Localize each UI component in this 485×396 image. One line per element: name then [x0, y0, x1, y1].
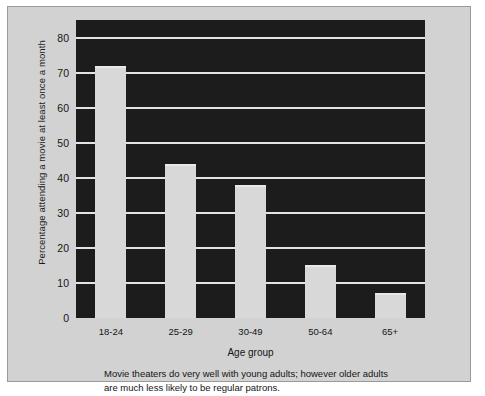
x-tick-label: 18-24: [99, 326, 123, 337]
y-tick-label: 30: [57, 207, 69, 219]
x-axis-title: Age group: [76, 347, 425, 358]
y-tick-label: 0: [63, 312, 69, 324]
gridline: [76, 72, 425, 74]
y-tick-label: 80: [57, 32, 69, 44]
y-axis-title: Percentage attending a movie at least on…: [36, 8, 47, 298]
x-tick-label: 50-64: [308, 326, 332, 337]
y-tick-label: 20: [57, 242, 69, 254]
bar: [95, 66, 126, 318]
bar: [375, 293, 406, 318]
y-tick-label: 60: [57, 102, 69, 114]
y-tick-label: 10: [57, 277, 69, 289]
gridline: [76, 107, 425, 109]
chart-caption: Movie theaters do very well with young a…: [104, 367, 404, 394]
y-tick-label: 70: [57, 67, 69, 79]
plot-area: 0102030405060708018-2425-2930-4950-6465+: [76, 20, 425, 318]
gridline: [76, 37, 425, 39]
bar: [165, 164, 196, 318]
y-tick-label: 40: [57, 172, 69, 184]
y-tick-label: 50: [57, 137, 69, 149]
x-tick-label: 65+: [382, 326, 398, 337]
gridline: [76, 142, 425, 144]
x-tick-label: 30-49: [238, 326, 262, 337]
bar: [305, 265, 336, 318]
bar: [235, 185, 266, 318]
x-tick-label: 25-29: [169, 326, 193, 337]
chart-figure: Percentage attending a movie at least on…: [7, 6, 471, 382]
gridline: [76, 177, 425, 179]
